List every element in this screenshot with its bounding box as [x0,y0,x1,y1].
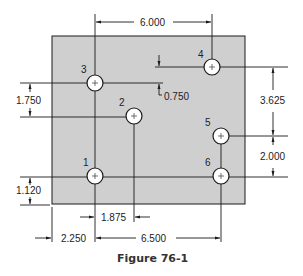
dim-text-2250: 2.250 [61,233,86,244]
hole-label-3: 3 [81,64,87,75]
hole-label-6: 6 [205,157,211,168]
dim-text-6500: 6.500 [141,233,166,244]
dim-text-1120: 1.120 [16,185,41,196]
hole-label-2: 2 [119,97,125,108]
dim-text-0750: 0.750 [164,91,189,102]
dimension-1875: 1.875 [80,212,150,223]
dim-text-1875: 1.875 [101,212,126,223]
technical-drawing: 1 2 3 4 5 6 6.000 1.750 [0,0,303,276]
dimension-6500: 6.500 [96,233,220,244]
dimension-2250: 2.250 [35,233,86,244]
dim-text-1750: 1.750 [16,95,41,106]
dimension-3625: 3.625 [260,68,285,135]
dimension-2000: 2.000 [260,137,285,176]
dimension-1750: 1.750 [16,84,41,116]
dim-text-3625: 3.625 [260,95,285,106]
figure-caption: Figure 76-1 [117,252,188,265]
hole-label-1: 1 [83,157,89,168]
dimension-1120: 1.120 [16,178,41,204]
hole-label-5: 5 [205,117,211,128]
dimension-6000: 6.000 [96,17,211,28]
dim-text-2000: 2.000 [260,151,285,162]
hole-label-4: 4 [198,49,204,60]
dim-text-6000: 6.000 [140,17,165,28]
